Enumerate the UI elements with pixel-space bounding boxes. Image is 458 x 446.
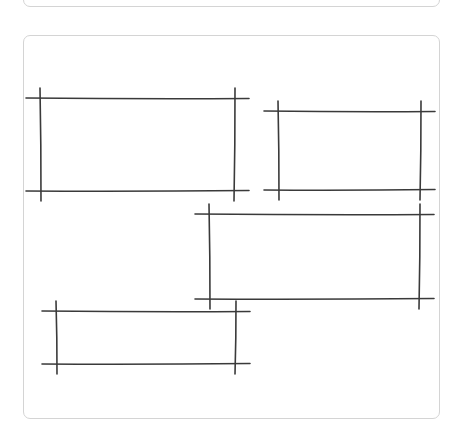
sketch-canvas	[0, 0, 458, 446]
sketch-rect-3	[195, 204, 434, 309]
sketch-rect-1	[26, 88, 249, 201]
sketch-rect-4	[42, 301, 250, 374]
sketch-rect-2	[264, 101, 435, 200]
